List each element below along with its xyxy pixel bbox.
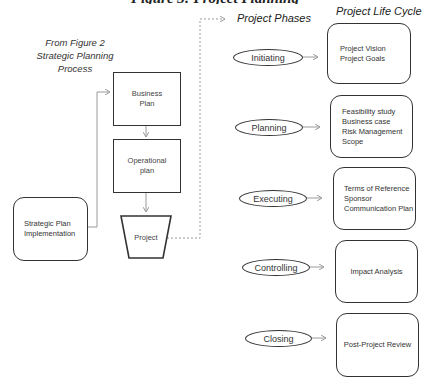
project-life-cycle-heading: Project Life Cycle xyxy=(336,5,422,17)
business-plan-line-2: Plan xyxy=(139,99,154,109)
project-label: Project xyxy=(121,233,171,242)
lifecycle-item: Sponsor xyxy=(344,194,372,204)
lifecycle-item: Post-Project Review xyxy=(344,340,412,350)
business-plan-box: Business Plan xyxy=(113,72,181,126)
operational-plan-box: Operational plan xyxy=(113,139,181,193)
lifecycle-executing-box: Terms of Reference Sponsor Communication… xyxy=(333,167,416,230)
figure-title-cutoff: Figure 3: Project Planning xyxy=(95,0,335,4)
lifecycle-planning-box: Feasibility study Business case Risk Man… xyxy=(330,95,413,158)
lifecycle-item: Scope xyxy=(342,137,363,147)
connector-project-to-phases xyxy=(167,19,225,238)
lifecycle-item: Impact Analysis xyxy=(350,267,402,277)
caption-line-1: From Figure 2 xyxy=(20,36,130,49)
project-phases-heading: Project Phases xyxy=(237,12,311,24)
phase-planning: Planning xyxy=(235,119,303,136)
operational-plan-line-2: plan xyxy=(140,166,154,176)
lifecycle-item: Terms of Reference xyxy=(344,184,409,194)
operational-plan-line-1: Operational xyxy=(128,156,167,166)
lifecycle-item: Project Vision xyxy=(340,44,386,54)
lifecycle-item: Feasibility study xyxy=(342,107,395,117)
lifecycle-closing-box: Post-Project Review xyxy=(336,313,419,377)
lifecycle-item: Risk Management xyxy=(342,127,402,137)
strategic-plan-line-2: Implementation xyxy=(24,229,75,239)
strategic-plan-box: Strategic Plan Implementation xyxy=(13,197,88,261)
business-plan-line-1: Business xyxy=(132,89,162,99)
connector-strategic-to-business xyxy=(87,92,110,227)
phase-initiating: Initiating xyxy=(233,49,303,66)
strategic-plan-line-1: Strategic Plan xyxy=(24,219,71,229)
phase-closing: Closing xyxy=(245,330,312,347)
phase-executing: Executing xyxy=(239,190,307,207)
lifecycle-item: Business case xyxy=(342,117,390,127)
phase-controlling: Controlling xyxy=(242,259,310,276)
source-caption: From Figure 2 Strategic Planning Process xyxy=(20,36,130,75)
lifecycle-initiating-box: Project Vision Project Goals xyxy=(327,23,411,84)
lifecycle-item: Communication Plan xyxy=(344,204,413,214)
lifecycle-controlling-box: Impact Analysis xyxy=(335,240,418,303)
lifecycle-item: Project Goals xyxy=(340,54,385,64)
